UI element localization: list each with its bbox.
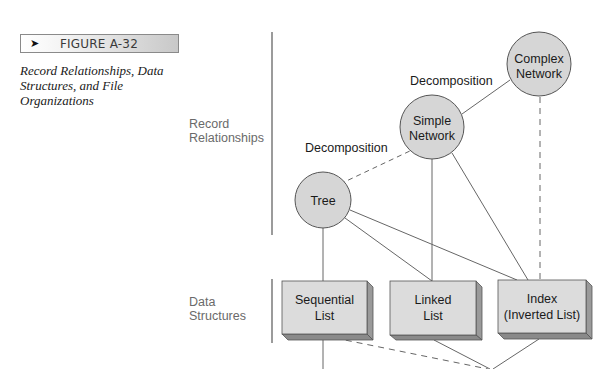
node-label: Tree [310,194,335,208]
node-sequential-list: Sequential List [282,281,373,340]
node-label: List [315,309,335,323]
edge-tree-simple [340,150,412,184]
node-label: (Inverted List) [504,308,580,322]
node-label: Index [527,292,558,306]
diagram-canvas: Decomposition Decomposition Tree Simple … [0,0,603,369]
edge-sequential-dashed [335,338,488,369]
node-label: Sequential [295,293,354,307]
edge-simple-index [452,153,528,280]
node-label: Network [409,129,456,143]
node-tree: Tree [295,172,351,228]
edge-tree-linked [345,218,432,281]
edge-label-tree-simple: Decomposition [305,141,388,155]
node-label: Network [516,67,563,81]
node-linked-list: Linked List [390,281,482,340]
node-index: Index (Inverted List) [498,280,592,339]
node-complex-network: Complex Network [507,32,571,96]
node-label: Simple [413,114,451,128]
node-simple-network: Simple Network [400,95,464,159]
node-label: Complex [514,52,564,66]
edge-index-down [493,339,539,369]
node-label: List [423,309,443,323]
edge-linked-down [434,340,490,369]
edge-label-simple-complex: Decomposition [410,74,493,88]
node-label: Linked [415,293,452,307]
